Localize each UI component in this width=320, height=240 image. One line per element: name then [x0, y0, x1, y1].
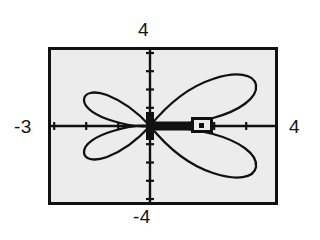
axis-label-left: -3	[14, 117, 32, 136]
axis-label-top: 4	[138, 20, 149, 39]
polar-rose-plot	[51, 50, 275, 202]
polar-graph-screenshot: 4 -4 -3 4	[0, 0, 320, 240]
plot-frame	[48, 47, 278, 205]
axis-label-right: 4	[289, 117, 300, 136]
petal-upper-left	[84, 93, 150, 127]
trace-cursor	[191, 117, 213, 133]
petal-lower-right	[150, 126, 256, 178]
petal-lower-left	[84, 126, 150, 160]
axis-label-bottom: -4	[133, 207, 151, 226]
